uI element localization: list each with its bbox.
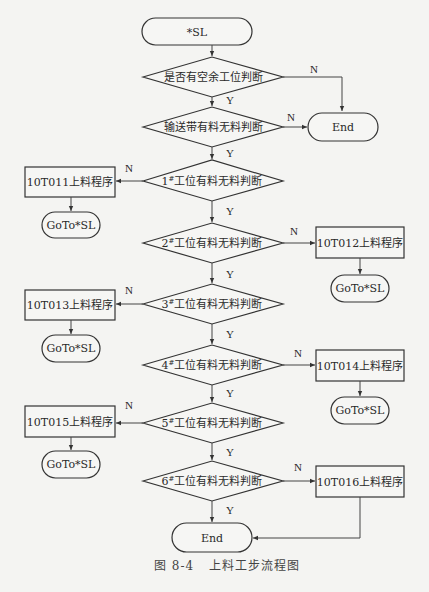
decision-station-6: 6#工位有料无料判断 <box>143 461 283 501</box>
process-10T011: 10T011上料程序 <box>25 167 115 197</box>
process-10T014: 10T014上料程序 <box>316 350 404 381</box>
yes-label: Y <box>226 504 234 516</box>
no-label: N <box>125 284 133 296</box>
svg-text:GoTo*SL: GoTo*SL <box>336 404 386 417</box>
yes-label: Y <box>226 446 234 458</box>
no-label: N <box>287 111 295 123</box>
end-terminal-top: End <box>308 113 378 141</box>
no-label: N <box>294 347 302 359</box>
goto-sl-5: GoTo*SL <box>42 451 100 478</box>
yes-label: Y <box>226 205 234 217</box>
decision-label: 输送带有料无料判断 <box>164 120 263 134</box>
svg-text:GoTo*SL: GoTo*SL <box>336 282 386 295</box>
no-label: N <box>290 225 298 237</box>
goto-sl-4: GoTo*SL <box>331 397 389 424</box>
decision-label: 3#工位有料无料判断 <box>162 297 263 311</box>
svg-text:10T013上料程序: 10T013上料程序 <box>27 298 113 312</box>
goto-sl-1: GoTo*SL <box>42 212 100 238</box>
decision-label: 2#工位有料无料判断 <box>162 236 263 250</box>
decision-label: 6#工位有料无料判断 <box>162 474 263 488</box>
svg-text:10T011上料程序: 10T011上料程序 <box>27 175 113 189</box>
no-label: N <box>310 63 318 75</box>
decision-label: 5#工位有料无料判断 <box>162 416 263 430</box>
yes-label: Y <box>226 147 234 159</box>
process-10T013: 10T013上料程序 <box>25 290 115 320</box>
figure-caption: 图 8-4 上料工步流程图 <box>154 558 300 573</box>
end-terminal-bottom: End <box>172 523 252 552</box>
svg-text:GoTo*SL: GoTo*SL <box>47 458 97 471</box>
yes-label: Y <box>226 387 234 399</box>
decision-label: 1#工位有料无料判断 <box>162 174 263 188</box>
start-terminal: *SL <box>142 18 252 45</box>
goto-sl-2: GoTo*SL <box>331 275 389 302</box>
yes-label: Y <box>226 94 234 106</box>
svg-text:GoTo*SL: GoTo*SL <box>47 219 97 232</box>
svg-text:GoTo*SL: GoTo*SL <box>47 342 97 355</box>
decision-free-station: 是否有空余工位判断 <box>143 57 283 97</box>
process-10T012: 10T012上料程序 <box>316 227 404 258</box>
decision-station-1: 1#工位有料无料判断 <box>143 160 283 201</box>
svg-text:10T014上料程序: 10T014上料程序 <box>317 359 403 373</box>
decision-station-2: 2#工位有料无料判断 <box>143 223 283 263</box>
yes-label: Y <box>226 328 234 340</box>
decision-station-5: 5#工位有料无料判断 <box>143 403 283 443</box>
decision-label: 是否有空余工位判断 <box>164 70 263 84</box>
svg-text:10T015上料程序: 10T015上料程序 <box>27 415 113 429</box>
start-label: *SL <box>187 26 208 39</box>
svg-text:10T016上料程序: 10T016上料程序 <box>317 475 403 489</box>
yes-label: Y <box>226 268 234 280</box>
decision-label: 4#工位有料无料判断 <box>162 358 263 372</box>
no-label: N <box>294 461 302 473</box>
decision-station-4: 4#工位有料无料判断 <box>143 345 283 385</box>
no-label: N <box>125 162 133 174</box>
end-label: End <box>201 532 223 545</box>
decision-station-3: 3#工位有料无料判断 <box>143 284 283 324</box>
no-label: N <box>125 399 133 411</box>
process-10T016: 10T016上料程序 <box>316 466 404 497</box>
flowchart: *SL 是否有空余工位判断 N Y 输送带有料无料判断 N End Y 1#工位… <box>0 0 429 592</box>
decision-conveyor: 输送带有料无料判断 <box>143 107 283 147</box>
svg-text:10T012上料程序: 10T012上料程序 <box>317 236 403 250</box>
end-label: End <box>332 121 354 134</box>
goto-sl-3: GoTo*SL <box>42 335 100 362</box>
process-10T015: 10T015上料程序 <box>25 406 115 437</box>
